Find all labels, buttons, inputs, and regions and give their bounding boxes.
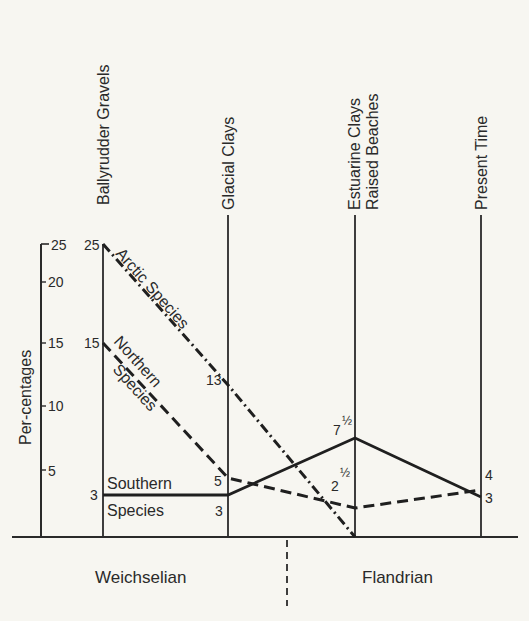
- y-axis-label: Per-centages: [17, 350, 34, 445]
- value-southern-c2-whole: 7: [333, 422, 341, 438]
- y-tick-10: 10: [48, 398, 64, 414]
- column-ballyrudder-gravels: Ballyrudder Gravels: [95, 65, 112, 206]
- value-southern-c2-frac: ½: [342, 414, 352, 428]
- value-northern-c0: 15: [84, 335, 100, 351]
- series-label-southern-1: Southern: [107, 475, 172, 492]
- series-label-arctic: Arctic Species: [113, 245, 193, 332]
- column-glacial-clays: Glacial Clays: [220, 117, 237, 210]
- column-present-time: Present Time: [473, 116, 490, 210]
- y-tick-20: 20: [48, 274, 64, 290]
- period-weichselian: Weichselian: [95, 568, 186, 587]
- value-southern-c0: 3: [90, 487, 98, 503]
- value-northern-c3: 4: [485, 467, 493, 483]
- column-raised-beaches: Raised Beaches: [364, 93, 381, 210]
- y-tick-25: 25: [51, 237, 67, 253]
- value-northern-c2-frac: ½: [340, 466, 350, 480]
- value-arctic-c1: 13: [206, 372, 222, 388]
- y-tick-5: 5: [48, 463, 56, 479]
- value-northern-c2-whole: 2: [331, 478, 339, 494]
- value-arctic-c0: 25: [84, 237, 100, 253]
- column-estuarine-clays: Estuarine Clays: [346, 98, 363, 210]
- y-axis: 25 20 15 10 5 Per-centages: [17, 237, 67, 537]
- value-northern-c1: 5: [214, 473, 222, 489]
- value-southern-c3: 3: [485, 490, 493, 506]
- y-tick-15: 15: [48, 335, 64, 351]
- species-percentage-chart: 25 20 15 10 5 Per-centages Ballyrudder G…: [0, 0, 529, 621]
- period-flandrian: Flandrian: [362, 568, 433, 587]
- series-label-southern-2: Species: [107, 502, 164, 519]
- value-southern-c1: 3: [215, 503, 223, 519]
